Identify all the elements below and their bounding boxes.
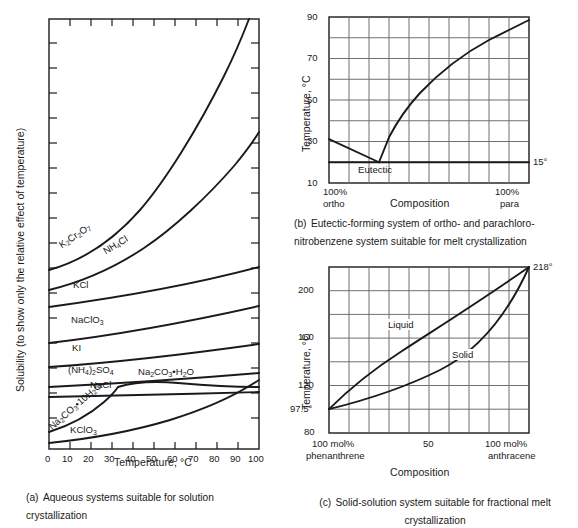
chart-b-y-tick-labels: 90 70 50 30 10 bbox=[290, 0, 330, 200]
chart-c-x-labels: 100 mol% phenanthrene 50 100 mol% anthra… bbox=[290, 438, 578, 470]
chart-b-caption-tag: (b) bbox=[294, 218, 306, 229]
chart-c-ytick-80: 80 bbox=[304, 426, 315, 437]
curve-label-kcl: KCl bbox=[73, 279, 88, 290]
chart-b-x-axis-title: Composition bbox=[390, 197, 449, 209]
chart-b-svg bbox=[328, 16, 530, 184]
chart-b-ytick-50: 50 bbox=[307, 94, 318, 105]
chart-b-xlabel-left-1: 100% bbox=[323, 186, 347, 197]
chart-c-218deg-label: 218° bbox=[533, 261, 553, 272]
chart-c-caption: (c) Solid-solution system suitable for f… bbox=[292, 492, 578, 528]
chart-b-xlabel-left-2: ortho bbox=[323, 198, 345, 209]
chart-c-svg bbox=[328, 266, 530, 434]
chart-c-caption-text: Solid-solution system suitable for fract… bbox=[336, 497, 551, 526]
curve-label-na2co3-h2o: Na2CO3•H2O bbox=[138, 366, 194, 378]
chart-b-eutectic-label: Eutectic bbox=[358, 164, 392, 175]
chart-a-caption-tag: (a) bbox=[26, 492, 38, 503]
chart-panel-b: Temperature, °C bbox=[290, 0, 578, 250]
chart-c-liquid-label: Liquid bbox=[386, 319, 416, 330]
chart-panel-c: Temperature, °C bbox=[290, 258, 578, 523]
chart-b-ytick-30: 30 bbox=[307, 135, 318, 146]
chart-a-x-axis-title-wrap: Temperature, °C bbox=[48, 452, 258, 470]
chart-c-plot-area: Liquid Solid bbox=[328, 266, 530, 434]
curve-label-nh42so4: (NH4)2SO4 bbox=[68, 364, 114, 376]
chart-a-caption-text: Aqueous systems suitable for solution cr… bbox=[26, 492, 214, 521]
chart-c-xlabel-mid: 50 bbox=[423, 438, 434, 449]
chart-b-x-labels: 100% ortho 100% para Composition bbox=[290, 186, 578, 216]
chart-c-ytick-97p5: 97.5° bbox=[290, 403, 312, 414]
chart-panel-a: Solubility (to show only the relative ef… bbox=[0, 0, 290, 523]
chart-a-plot-area: K2Cr2O7 NH4Cl KCl NaClO3 KI (NH4)2SO4 Na… bbox=[48, 18, 260, 450]
chart-c-xlabel-left-1: 100 mol% bbox=[312, 438, 354, 449]
chart-b-ytick-70: 70 bbox=[307, 52, 318, 63]
curve-label-kclo3: KClO3 bbox=[70, 424, 97, 436]
chart-b-plot-area: Eutectic bbox=[328, 16, 530, 184]
chart-c-xlabel-right-1: 100 mol% bbox=[485, 438, 527, 449]
chart-c-x-axis-title: Composition bbox=[390, 466, 449, 478]
chart-b-15deg-label: 15° bbox=[533, 156, 547, 167]
chart-c-solid-label: Solid bbox=[450, 349, 475, 360]
curve-label-ki: KI bbox=[72, 342, 81, 353]
chart-b-ytick-90: 90 bbox=[307, 11, 318, 22]
chart-c-ytick-120: 120 bbox=[298, 379, 314, 390]
chart-b-xlabel-right-2: para bbox=[500, 198, 519, 209]
chart-c-ytick-200: 200 bbox=[298, 284, 314, 295]
chart-b-caption-text: Eutectic-forming system of ortho- and pa… bbox=[294, 218, 535, 247]
chart-c-y-tick-labels: 200 160 120 97.5° 80 bbox=[290, 258, 330, 458]
chart-b-caption: (b) Eutectic-forming system of ortho- an… bbox=[294, 213, 574, 249]
chart-c-xlabel-left-2: phenanthrene bbox=[306, 450, 365, 461]
chart-b-xlabel-right-1: 100% bbox=[495, 186, 519, 197]
chart-c-ytick-160: 160 bbox=[298, 331, 314, 342]
chart-c-caption-tag: (c) bbox=[319, 497, 331, 508]
chart-a-x-axis-title: Temperature, °C bbox=[114, 456, 192, 468]
chart-c-xlabel-right-2: anthracene bbox=[488, 450, 536, 461]
curve-label-naclo3: NaClO3 bbox=[71, 314, 104, 326]
chart-a-y-axis-title: Solubility (to show only the relative ef… bbox=[14, 128, 26, 392]
chart-a-caption: (a) Aqueous systems suitable for solutio… bbox=[26, 487, 276, 523]
